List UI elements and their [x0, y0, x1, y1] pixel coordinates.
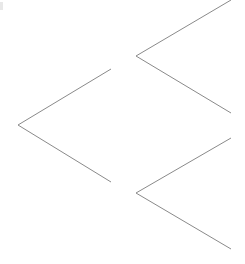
upper-edge	[136, 138, 231, 193]
lower-edge	[136, 193, 231, 249]
upper-edge	[136, 0, 231, 56]
top-right-branch	[136, 0, 231, 113]
lower-edge	[136, 56, 231, 113]
tree-diagram	[0, 0, 245, 264]
left-branch	[18, 69, 111, 182]
upper-edge	[18, 69, 111, 125]
bottom-right-branch	[136, 138, 231, 249]
lower-edge	[18, 125, 111, 182]
